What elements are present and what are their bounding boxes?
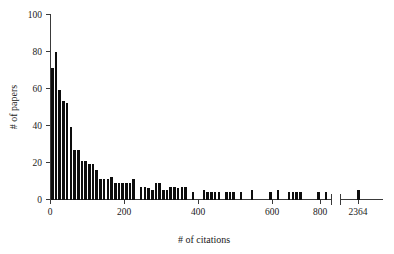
x-tick-label-outlier: 2364: [349, 207, 368, 217]
citation-histogram-figure: 0 20 40 60 80 100 0 200 400 600 800 2364…: [0, 0, 394, 254]
histogram-bar: [232, 192, 235, 199]
histogram-bar: [107, 179, 110, 199]
y-tick-label-80: 80: [33, 47, 43, 57]
x-tick-label-400: 400: [191, 207, 206, 217]
histogram-bar: [162, 190, 165, 199]
x-axis-title: # of citations: [178, 234, 230, 245]
histogram-bar: [62, 101, 65, 199]
histogram-bar: [229, 192, 232, 199]
histogram-bar: [51, 68, 54, 199]
y-tick-label-60: 60: [33, 84, 43, 94]
histogram-bar: [110, 177, 113, 199]
histogram-bar: [125, 183, 128, 200]
histogram-bar: [184, 187, 187, 200]
x-tick-label-0: 0: [48, 207, 53, 217]
histogram-bar: [151, 190, 154, 199]
histogram-bar: [292, 192, 295, 199]
y-tick-label-20: 20: [33, 158, 43, 168]
histogram-bar: [166, 190, 169, 199]
histogram-bar: [173, 187, 176, 200]
histogram-bar: [357, 190, 360, 199]
y-tick-label-0: 0: [37, 195, 42, 205]
y-axis-title: # of papers: [8, 85, 19, 130]
histogram-bar: [114, 183, 117, 200]
histogram-bar: [269, 192, 272, 199]
histogram-bar: [317, 192, 320, 199]
histogram-bar: [225, 192, 228, 199]
histogram-bar: [277, 190, 280, 199]
histogram-bar: [144, 187, 147, 200]
histogram-bar: [84, 161, 87, 200]
histogram-bar: [210, 192, 213, 199]
histogram-bar: [73, 150, 76, 200]
histogram-bar: [158, 183, 161, 200]
histogram-bar: [77, 150, 80, 200]
histogram-bar: [66, 103, 69, 199]
histogram-bar: [147, 188, 150, 199]
histogram-bar: [95, 170, 98, 200]
y-tick-label-40: 40: [33, 121, 43, 131]
histogram-bar: [92, 164, 95, 199]
histogram-bar: [214, 192, 217, 199]
histogram-bar: [118, 183, 121, 200]
histogram-bar: [325, 192, 328, 199]
x-tick-label-600: 600: [265, 207, 280, 217]
histogram-bar: [288, 192, 291, 199]
histogram-bar: [203, 190, 206, 199]
histogram-bar: [140, 187, 143, 200]
histogram-bar: [88, 164, 91, 199]
histogram-bar: [99, 179, 102, 199]
histogram-bar: [155, 183, 158, 200]
x-tick-label-800: 800: [313, 207, 328, 217]
histogram-bar: [181, 187, 184, 200]
y-tick-label-100: 100: [28, 10, 43, 20]
histogram-bar: [129, 183, 132, 200]
histogram-bar: [132, 179, 135, 199]
histogram-bar: [177, 188, 180, 199]
histogram-bar: [251, 190, 254, 199]
histogram-bar: [240, 192, 243, 199]
histogram-bar: [55, 52, 58, 200]
histogram-bar: [81, 161, 84, 200]
histogram-bar: [58, 90, 61, 199]
histogram-bar: [169, 187, 172, 200]
histogram-bar: [70, 127, 73, 199]
histogram-bar: [121, 183, 124, 200]
chart-canvas: 0 20 40 60 80 100 0 200 400 600 800 2364…: [0, 0, 394, 254]
histogram-bar: [299, 192, 302, 199]
histogram-bar: [103, 179, 106, 199]
histogram-bar: [295, 192, 298, 199]
histogram-bar: [206, 192, 209, 199]
x-tick-label-200: 200: [117, 207, 132, 217]
histogram-bar: [192, 192, 195, 199]
histogram-bar: [218, 192, 221, 199]
